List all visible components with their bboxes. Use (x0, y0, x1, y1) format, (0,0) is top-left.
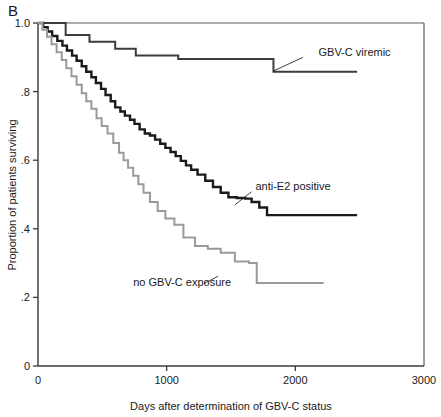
leader-line-0 (273, 57, 303, 71)
y-tick-label: .2 (21, 291, 30, 303)
y-axis-title: Proportion of patients surviving (6, 119, 18, 270)
y-tick-label: .4 (21, 223, 30, 235)
x-tick-label: 0 (35, 374, 41, 386)
figure-root: B 0.2.4.6.81.0 0100020003000 GBV-C virem… (0, 0, 441, 417)
survival-curves (38, 23, 357, 283)
y-tick-label: .8 (21, 86, 30, 98)
x-tick-label: 2000 (283, 374, 307, 386)
kaplan-meier-survival-chart: 0.2.4.6.81.0 0100020003000 GBV-C viremic… (0, 0, 441, 417)
y-axis-ticks: 0.2.4.6.81.0 (15, 17, 38, 372)
x-tick-label: 3000 (412, 374, 436, 386)
survival-curve-gbv-c-viremic (38, 23, 357, 72)
plot-frame (38, 23, 424, 366)
y-tick-label: .6 (21, 154, 30, 166)
series-label-gbv-c-viremic: GBV-C viremic (318, 46, 391, 58)
x-tick-label: 1000 (154, 374, 178, 386)
x-axis-title: Days after determination of GBV-C status (130, 400, 332, 412)
y-tick-label: 1.0 (15, 17, 30, 29)
x-axis-ticks: 0100020003000 (35, 366, 436, 386)
y-tick-label: 0 (24, 360, 30, 372)
series-label-no-gbv-c-exposure: no GBV-C exposure (133, 276, 231, 288)
series-label-anti-e2-positive: anti-E2 positive (255, 180, 330, 192)
curve-annotations: GBV-C viremicanti-E2 positiveno GBV-C ex… (133, 46, 391, 288)
